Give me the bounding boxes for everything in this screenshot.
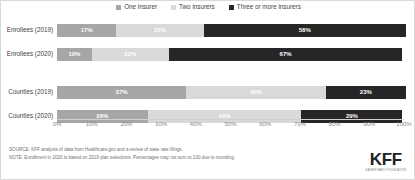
bar-segment-value: 58% [299, 27, 311, 33]
bar-row: Enrollees (2019)17%25%58% [1, 23, 415, 37]
x-axis-tick-label: 0% [53, 121, 62, 127]
legend-entry[interactable]: Two insurers [171, 4, 215, 10]
bar-segment-value: 17% [81, 27, 93, 33]
bar-row: Enrollees (2020)10%22%67% [1, 47, 415, 61]
row-label: Enrollees (2019) [1, 27, 57, 33]
x-axis-tick-label: 70% [294, 121, 306, 127]
x-axis-tick-label: 10% [86, 121, 98, 127]
bar-segment-value: 25% [154, 27, 166, 33]
x-axis-tick-label: 60% [259, 121, 271, 127]
bar-segment[interactable]: 58% [204, 24, 406, 37]
bar-segment[interactable]: 22% [92, 48, 169, 61]
chart-card: One insurerTwo insurersThree or more ins… [0, 0, 415, 180]
kff-logo-subtitle: KAISER FAMILY FOUNDATION [366, 169, 407, 172]
plot-area: Enrollees (2019)17%25%58%Enrollees (2020… [1, 17, 415, 133]
source-note: SOURCE: KFF analysis of data from Health… [9, 146, 349, 154]
bar-track: 17%25%58% [57, 24, 406, 37]
square-swatch-icon [171, 5, 176, 10]
methodology-note: NOTE: Enrollment in 2020 is based on 201… [9, 154, 349, 162]
kff-logo: KFF KAISER FAMILY FOUNDATION [366, 152, 407, 172]
bar-segment-value: 23% [360, 89, 372, 95]
bar-segment-value: 67% [280, 51, 292, 57]
footer-notes: SOURCE: KFF analysis of data from Health… [9, 146, 349, 162]
legend-entry[interactable]: One insurer [116, 4, 157, 10]
bar-segment[interactable]: 23% [326, 86, 406, 99]
bar-segment-value: 10% [68, 51, 80, 57]
bar-segment-value: 40% [250, 89, 262, 95]
bar-segment[interactable]: 67% [169, 48, 403, 61]
x-axis-tick-label: 30% [155, 121, 167, 127]
bar-segment[interactable]: 17% [57, 24, 116, 37]
bar-segment-value: 37% [116, 89, 128, 95]
x-axis-tick-label: 80% [329, 121, 341, 127]
x-axis-tick-label: 90% [363, 121, 375, 127]
square-swatch-icon [229, 5, 234, 10]
bar-row: Counties (2019)37%40%23% [1, 85, 415, 99]
legend-label: Three or more insurers [237, 4, 301, 10]
x-axis-tick-label: 100% [396, 121, 411, 127]
bar-segment[interactable]: 40% [186, 86, 326, 99]
bar-track: 10%22%67% [57, 48, 406, 61]
x-axis: 0%10%20%30%40%50%60%70%80%90%100% [57, 119, 404, 131]
chart-legend: One insurerTwo insurersThree or more ins… [1, 4, 415, 10]
row-label: Enrollees (2020) [1, 51, 57, 57]
square-swatch-icon [116, 5, 121, 10]
x-axis-tick-label: 40% [190, 121, 202, 127]
x-axis-tick-label: 20% [120, 121, 132, 127]
x-axis-tick-label: 50% [224, 121, 236, 127]
bar-segment-value: 22% [124, 51, 136, 57]
bar-track: 37%40%23% [57, 86, 406, 99]
legend-label: Two insurers [179, 4, 215, 10]
legend-entry[interactable]: Three or more insurers [229, 4, 301, 10]
row-label: Counties (2020) [1, 113, 57, 119]
bar-segment[interactable]: 37% [57, 86, 186, 99]
x-axis-line [57, 119, 404, 120]
legend-label: One insurer [124, 4, 157, 10]
bar-segment[interactable]: 10% [57, 48, 92, 61]
bar-segment[interactable]: 25% [116, 24, 203, 37]
kff-logo-mark: KFF [366, 152, 407, 168]
row-label: Counties (2019) [1, 89, 57, 95]
